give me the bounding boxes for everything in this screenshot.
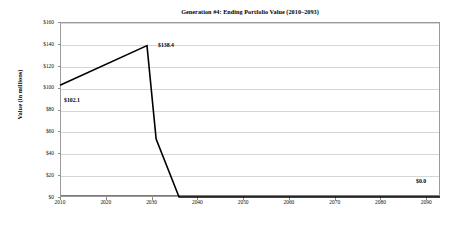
x-axis-tick-label: 2030 xyxy=(135,199,169,205)
x-axis-tick-mark xyxy=(60,197,61,200)
y-axis-tick-label: $100 xyxy=(20,84,54,90)
y-axis-tick-label: $60 xyxy=(20,128,54,134)
x-axis-tick-label: 2060 xyxy=(272,199,306,205)
y-axis-tick-label: $140 xyxy=(20,41,54,47)
series-line-portfolio-value xyxy=(60,22,440,197)
data-label-peak-value: $138.4 xyxy=(158,42,174,48)
y-axis-tick-label: $160 xyxy=(20,19,54,25)
x-axis-tick-label: 2090 xyxy=(409,199,443,205)
x-axis-tick-label: 2080 xyxy=(363,199,397,205)
y-axis-tick-label: $120 xyxy=(20,63,54,69)
x-axis-tick-label: 2020 xyxy=(89,199,123,205)
x-axis-tick-mark xyxy=(106,197,107,200)
chart-container: Generation #4: Ending Portfolio Value (2… xyxy=(0,0,454,225)
chart-title: Generation #4: Ending Portfolio Value (2… xyxy=(60,7,440,16)
data-label-start-value: $102.1 xyxy=(64,97,80,103)
x-axis-tick-mark xyxy=(152,197,153,200)
x-axis-tick-label: 2010 xyxy=(43,199,77,205)
x-axis-tick-label: 2070 xyxy=(318,199,352,205)
x-axis-tick-label: 2040 xyxy=(180,199,214,205)
y-axis-tick-label: $80 xyxy=(20,106,54,112)
data-label-end-value: $0.0 xyxy=(416,178,426,184)
x-axis-tick-label: 2050 xyxy=(226,199,260,205)
y-axis-tick-label: $20 xyxy=(20,172,54,178)
y-axis-tick-label: $40 xyxy=(20,150,54,156)
